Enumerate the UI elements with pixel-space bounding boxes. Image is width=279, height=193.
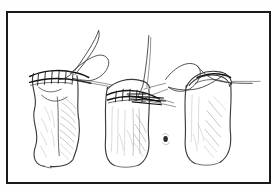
middle-thread-vertical-2 [147,37,151,87]
panel-middle-group [105,35,175,167]
illustration-frame [6,11,271,184]
panel-right-group [144,63,260,165]
figure-root [0,0,279,193]
left-thread-tail-right [73,78,113,85]
panel-left-group [30,31,117,168]
left-tube-bottom [44,166,52,167]
surgical-illustration [8,13,269,182]
ink-speck [163,133,170,144]
